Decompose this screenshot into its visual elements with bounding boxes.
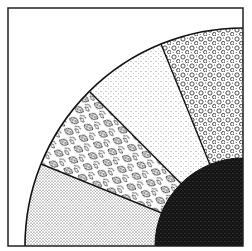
quarter-circle-diagram	[0, 0, 252, 251]
